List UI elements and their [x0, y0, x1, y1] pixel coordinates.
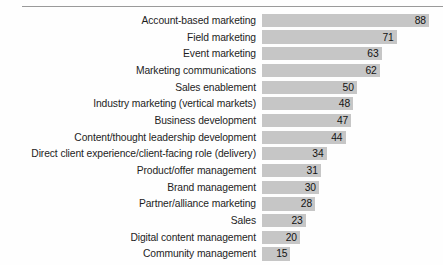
bar-value-label: 20	[286, 232, 297, 243]
bar-value-label: 34	[312, 148, 323, 159]
bar-track: 50	[262, 81, 443, 94]
bar-row: Field marketing71	[0, 29, 443, 46]
bar-track: 71	[262, 30, 443, 43]
bar: 48	[262, 97, 353, 110]
bar-track: 15	[262, 247, 443, 260]
bar-value-label: 62	[365, 65, 376, 76]
category-label: Community management	[0, 248, 262, 259]
bar-value-label: 50	[343, 82, 354, 93]
category-label: Business development	[0, 115, 262, 126]
bar: 88	[262, 14, 429, 27]
bar: 20	[262, 231, 300, 244]
bar: 28	[262, 197, 315, 210]
bar-row: Business development47	[0, 112, 443, 129]
bar-value-label: 31	[307, 165, 318, 176]
bar-value-label: 71	[382, 32, 393, 43]
bar-track: 34	[262, 147, 443, 160]
category-label: Product/offer management	[0, 165, 262, 176]
bar-value-label: 48	[339, 98, 350, 109]
bar: 30	[262, 181, 319, 194]
bar-track: 47	[262, 114, 443, 127]
bar: 50	[262, 81, 357, 94]
bar: 63	[262, 47, 382, 60]
bar-track: 48	[262, 97, 443, 110]
bar-row: Industry marketing (vertical markets)48	[0, 95, 443, 112]
bar-value-label: 28	[301, 198, 312, 209]
category-label: Field marketing	[0, 32, 262, 43]
bar-row: Partner/alliance marketing28	[0, 196, 443, 213]
category-label: Direct client experience/client-facing r…	[0, 148, 262, 159]
bar-track: 20	[262, 231, 443, 244]
bar-row: Marketing communications62	[0, 62, 443, 79]
bar-row: Product/offer management31	[0, 162, 443, 179]
bar-value-label: 15	[276, 248, 287, 259]
bar-row: Event marketing63	[0, 45, 443, 62]
category-label: Sales enablement	[0, 82, 262, 93]
bar-row: Content/thought leadership development44	[0, 129, 443, 146]
bar: 44	[262, 131, 346, 144]
bar: 31	[262, 164, 321, 177]
bar: 47	[262, 114, 351, 127]
bar-value-label: 88	[415, 15, 426, 26]
bar-track: 62	[262, 64, 443, 77]
bar-track: 31	[262, 164, 443, 177]
bar-row: Sales23	[0, 212, 443, 229]
bar-value-label: 23	[291, 215, 302, 226]
bar-track: 23	[262, 214, 443, 227]
bar-track: 28	[262, 197, 443, 210]
header-divider	[22, 6, 443, 7]
category-label: Partner/alliance marketing	[0, 198, 262, 209]
bar-row: Account-based marketing88	[0, 12, 443, 29]
horizontal-bar-chart: Account-based marketing88Field marketing…	[0, 0, 443, 265]
bar-value-label: 63	[367, 48, 378, 59]
category-label: Industry marketing (vertical markets)	[0, 98, 262, 109]
bar: 34	[262, 147, 327, 160]
category-label: Content/thought leadership development	[0, 132, 262, 143]
bar-row: Brand management30	[0, 179, 443, 196]
bar-value-label: 44	[331, 132, 342, 143]
bar: 23	[262, 214, 306, 227]
bar-track: 63	[262, 47, 443, 60]
bar-track: 88	[262, 14, 443, 27]
bar: 62	[262, 64, 380, 77]
bar-track: 44	[262, 131, 443, 144]
bar-row: Digital content management20	[0, 229, 443, 246]
bar-row: Sales enablement50	[0, 79, 443, 96]
category-label: Event marketing	[0, 48, 262, 59]
category-label: Brand management	[0, 182, 262, 193]
chart-plot-area: Account-based marketing88Field marketing…	[0, 12, 443, 262]
category-label: Marketing communications	[0, 65, 262, 76]
category-label: Digital content management	[0, 232, 262, 243]
bar-row: Community management15	[0, 246, 443, 263]
category-label: Sales	[0, 215, 262, 226]
bar-row: Direct client experience/client-facing r…	[0, 146, 443, 163]
bar: 15	[262, 247, 290, 260]
bar-value-label: 30	[305, 182, 316, 193]
bar: 71	[262, 30, 397, 43]
category-label: Account-based marketing	[0, 15, 262, 26]
bar-track: 30	[262, 181, 443, 194]
bar-value-label: 47	[337, 115, 348, 126]
